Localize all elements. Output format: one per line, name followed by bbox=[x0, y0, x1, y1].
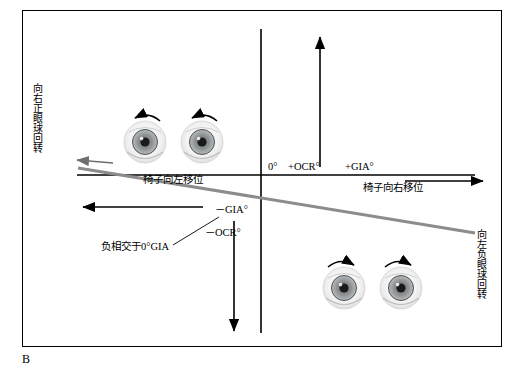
eye-top-left bbox=[124, 121, 166, 163]
plus-ocr-label: +OCR° bbox=[288, 161, 320, 172]
rotation-arrow-bottom-left bbox=[328, 261, 354, 267]
eye-top-right bbox=[181, 121, 223, 163]
origin-label: 0° bbox=[268, 161, 277, 172]
rotation-arrow-bottom-right bbox=[385, 261, 411, 267]
diagram-svg bbox=[23, 11, 502, 347]
eye-bottom-right bbox=[380, 267, 422, 309]
minus-gia-label: －GIA° bbox=[215, 201, 248, 216]
rotation-arrow-top-right bbox=[192, 115, 217, 121]
eye-bottom-left bbox=[323, 267, 365, 309]
plus-gia-label: +GIA° bbox=[345, 161, 374, 172]
negative-correlation-label: 负相交于0°GIA bbox=[101, 238, 169, 253]
rotation-arrow-top-left bbox=[135, 115, 160, 121]
minus-ocr-label: －OCR° bbox=[205, 224, 241, 239]
eye-pair-top bbox=[124, 115, 223, 163]
chair-right-label: 椅子向右移位 bbox=[363, 179, 423, 194]
negative-correlation-line bbox=[78, 168, 475, 233]
figure-panel: 向右正眼球回转 向左负眼球回转 椅子向左移位 椅子向右移位 0° +OCR° +… bbox=[22, 10, 502, 347]
eye-pair-bottom bbox=[323, 261, 422, 309]
panel-letter: B bbox=[22, 352, 30, 367]
chair-left-label: 椅子向左移位 bbox=[143, 171, 203, 186]
y-axis-label-top: 向右正眼球回转 bbox=[31, 83, 42, 153]
y-axis-label-bottom: 向左负眼球回转 bbox=[475, 229, 486, 299]
diagonal-left-arrow bbox=[77, 160, 113, 163]
